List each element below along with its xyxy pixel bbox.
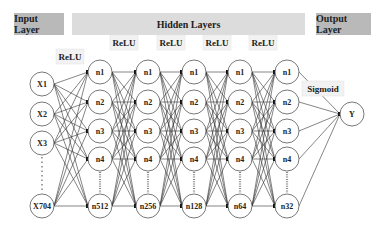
node-label: n3 xyxy=(190,127,198,136)
node-label: n1 xyxy=(236,68,244,77)
node-label: n2 xyxy=(236,98,244,107)
hidden-node: n1 xyxy=(182,60,206,84)
node-label: X1 xyxy=(37,80,47,89)
node-label: n4 xyxy=(190,155,198,164)
svg-text:ReLU: ReLU xyxy=(252,38,275,48)
svg-text:ReLU: ReLU xyxy=(59,52,82,62)
node-label: n4 xyxy=(96,155,104,164)
node-label: X2 xyxy=(37,110,47,119)
hidden-node: n64 xyxy=(228,194,252,218)
input-node: X2 xyxy=(30,102,54,126)
svg-text:ReLU: ReLU xyxy=(113,38,136,48)
activation-label-relu: ReLU xyxy=(110,35,138,50)
neural-network-diagram: X1X2X3X704n1n2n3n4n512n1n2n3n4n256n1n2n3… xyxy=(0,0,385,232)
svg-text:ReLU: ReLU xyxy=(160,38,183,48)
input-node: X704 xyxy=(30,194,54,218)
hidden-node: n2 xyxy=(88,90,112,114)
node-label: n4 xyxy=(236,155,244,164)
hidden-node: n128 xyxy=(182,194,206,218)
activation-label-relu: ReLU xyxy=(249,35,277,50)
node-label: n32 xyxy=(281,202,293,211)
node-label: n512 xyxy=(92,202,108,211)
hidden-node: n4 xyxy=(136,147,160,171)
node-label: n256 xyxy=(140,202,156,211)
hidden-node: n4 xyxy=(88,147,112,171)
hidden-node: n2 xyxy=(228,90,252,114)
node-label: X704 xyxy=(33,202,51,211)
node-label: Y xyxy=(349,110,355,119)
hidden-node: n1 xyxy=(88,60,112,84)
hidden-node: n3 xyxy=(136,119,160,143)
hidden-node: n3 xyxy=(88,119,112,143)
input-node: X1 xyxy=(30,72,54,96)
node-label: n4 xyxy=(144,155,152,164)
hidden-node: n1 xyxy=(275,60,299,84)
hidden-node: n1 xyxy=(136,60,160,84)
node-label: n128 xyxy=(186,202,202,211)
hidden-node: n3 xyxy=(182,119,206,143)
activation-label-relu: ReLU xyxy=(56,49,84,64)
hidden-node: n4 xyxy=(275,147,299,171)
node-label: n2 xyxy=(144,98,152,107)
hidden-node: n4 xyxy=(182,147,206,171)
hidden-node: n2 xyxy=(275,90,299,114)
node-label: X3 xyxy=(37,139,47,148)
node-label: n3 xyxy=(236,127,244,136)
node-label: n1 xyxy=(190,68,198,77)
node-label: n3 xyxy=(144,127,152,136)
node-label: n64 xyxy=(234,202,246,211)
node-label: n2 xyxy=(283,98,291,107)
hidden-node: n2 xyxy=(136,90,160,114)
node-label: n3 xyxy=(283,127,291,136)
activation-label-sigmoid: Sigmoid xyxy=(302,81,344,96)
activation-label-relu: ReLU xyxy=(157,35,185,50)
node-label: n3 xyxy=(96,127,104,136)
node-label: n1 xyxy=(283,68,291,77)
input-node: X3 xyxy=(30,131,54,155)
hidden-node: n3 xyxy=(228,119,252,143)
svg-text:ReLU: ReLU xyxy=(206,38,229,48)
hidden-node: n512 xyxy=(88,194,112,218)
node-label: n2 xyxy=(190,98,198,107)
svg-text:Sigmoid: Sigmoid xyxy=(307,84,339,94)
node-label: n4 xyxy=(283,155,291,164)
hidden-node: n256 xyxy=(136,194,160,218)
node-label: n2 xyxy=(96,98,104,107)
node-label: n1 xyxy=(96,68,104,77)
activation-label-relu: ReLU xyxy=(203,35,231,50)
hidden-node: n32 xyxy=(275,194,299,218)
output-node: Y xyxy=(340,102,364,126)
hidden-node: n3 xyxy=(275,119,299,143)
hidden-node: n2 xyxy=(182,90,206,114)
node-label: n1 xyxy=(144,68,152,77)
hidden-node: n1 xyxy=(228,60,252,84)
hidden-node: n4 xyxy=(228,147,252,171)
